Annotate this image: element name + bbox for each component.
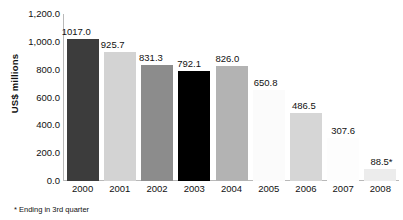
bar-2007 bbox=[327, 138, 359, 181]
x-axis-tick-2005: 2005 bbox=[250, 183, 287, 194]
x-axis-tick-2001: 2001 bbox=[101, 183, 138, 194]
y-axis-tick: 1,200.0 bbox=[28, 9, 60, 19]
x-axis-tick-2007: 2007 bbox=[325, 183, 362, 194]
bar-2004 bbox=[216, 66, 248, 181]
x-axis-tick-2004: 2004 bbox=[213, 183, 250, 194]
bar-value-label-2006: 486.5 bbox=[292, 101, 316, 111]
y-axis-tick: 1,000.0 bbox=[28, 37, 60, 47]
plot-area: 1017.0925.7831.3792.1826.0650.8486.5307.… bbox=[64, 14, 399, 181]
y-axis-tick: 0.0 bbox=[47, 176, 60, 186]
x-axis-tick-2002: 2002 bbox=[138, 183, 175, 194]
y-axis-tick: 400.0 bbox=[36, 121, 60, 131]
x-axis-tick-labels: 200020012002200320042005200620072008 bbox=[64, 183, 399, 197]
x-axis-tick-2003: 2003 bbox=[176, 183, 213, 194]
bar-2003 bbox=[178, 71, 210, 181]
bar-2008 bbox=[364, 169, 396, 181]
y-axis-tick-labels: 0.0200.0400.0600.0800.01,000.01,200.0 bbox=[8, 0, 60, 181]
bar-2006 bbox=[290, 113, 322, 181]
bar-chart: US$ millions 0.0200.0400.0600.0800.01,00… bbox=[0, 0, 403, 220]
bar-value-label-2005: 650.8 bbox=[254, 78, 278, 88]
bar-2005 bbox=[253, 90, 285, 181]
bar-value-label-2003: 792.1 bbox=[177, 59, 201, 69]
y-axis-tick: 800.0 bbox=[36, 65, 60, 75]
bar-2002 bbox=[141, 65, 173, 181]
x-axis-tick-2008: 2008 bbox=[362, 183, 399, 194]
bar-value-label-2004: 826.0 bbox=[216, 54, 240, 64]
bar-value-label-2000: 1017.0 bbox=[62, 27, 91, 37]
bar-value-label-2008: 88.5* bbox=[370, 157, 392, 167]
bar-value-label-2001: 925.7 bbox=[101, 40, 125, 50]
bar-2000 bbox=[67, 39, 99, 181]
x-axis-tick-2000: 2000 bbox=[64, 183, 101, 194]
chart-footnote: * Ending in 3rd quarter bbox=[14, 205, 89, 214]
bar-value-label-2002: 831.3 bbox=[139, 53, 163, 63]
y-axis-tick: 200.0 bbox=[36, 148, 60, 158]
bar-2001 bbox=[104, 52, 136, 181]
y-axis-tick: 600.0 bbox=[36, 93, 60, 103]
x-axis-tick-2006: 2006 bbox=[287, 183, 324, 194]
bar-value-label-2007: 307.6 bbox=[331, 126, 355, 136]
